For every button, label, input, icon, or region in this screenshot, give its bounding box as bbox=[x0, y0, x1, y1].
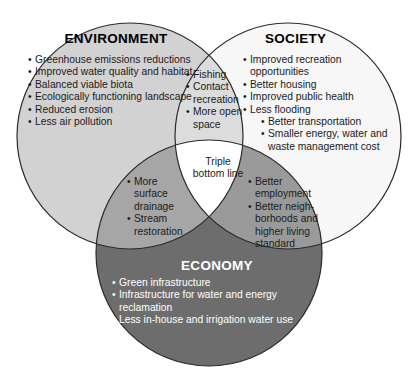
venn-circles-graphic bbox=[0, 0, 415, 391]
venn-diagram: ENVIRONMENT Greenhouse emissions reducti… bbox=[0, 0, 415, 391]
